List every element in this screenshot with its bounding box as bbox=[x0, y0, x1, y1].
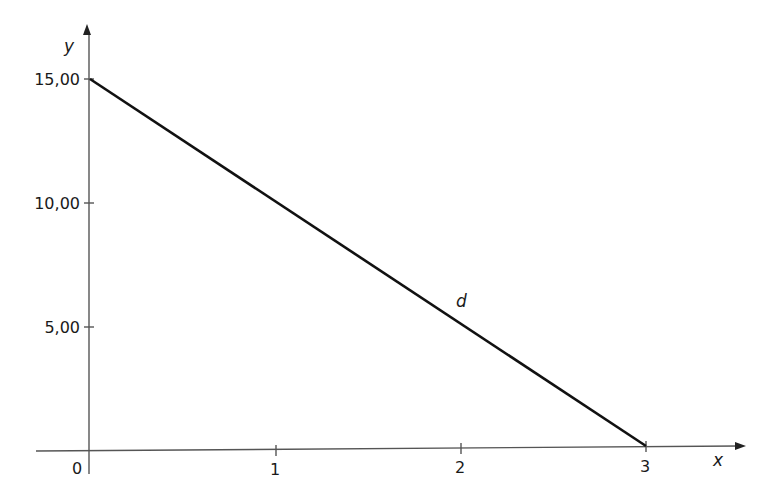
line-d-label: d bbox=[456, 291, 467, 311]
x-axis-arrow-icon bbox=[735, 442, 746, 450]
y-axis-arrow-icon bbox=[83, 24, 91, 35]
origin-label: 0 bbox=[72, 459, 82, 478]
x-axis-label: x bbox=[712, 450, 724, 470]
y-tick-label-15: 15,00 bbox=[34, 70, 80, 89]
y-axis-label: y bbox=[63, 36, 75, 56]
x-tick-label-3: 3 bbox=[640, 457, 650, 476]
x-tick-label-2: 2 bbox=[455, 458, 465, 477]
y-tick-label-5: 5,00 bbox=[44, 318, 80, 337]
y-tick-label-10: 10,00 bbox=[34, 194, 80, 213]
line-d bbox=[90, 79, 646, 446]
chart-canvas: 0 1 2 3 15,00 10,00 5,00 y x d bbox=[0, 0, 769, 502]
x-axis bbox=[36, 446, 738, 451]
x-tick-label-1: 1 bbox=[270, 460, 280, 479]
